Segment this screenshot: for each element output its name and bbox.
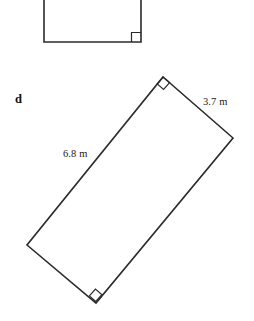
dimension-label-width: 3.7 m	[203, 96, 227, 107]
geometry-figure: d 3.7 m 6.8 m	[0, 0, 254, 321]
top-cropped-rectangle	[44, 0, 141, 42]
figure-page: d 3.7 m 6.8 m	[0, 0, 254, 321]
top-rectangle-right-angle-icon	[132, 33, 142, 43]
part-label: d	[15, 92, 22, 106]
dimension-label-length: 6.8 m	[63, 148, 87, 159]
top-rectangle-outline	[44, 0, 141, 42]
rotated-rectangle	[27, 77, 233, 303]
rotated-rectangle-outline	[27, 77, 233, 303]
top-vertex-right-angle-icon	[157, 77, 169, 89]
